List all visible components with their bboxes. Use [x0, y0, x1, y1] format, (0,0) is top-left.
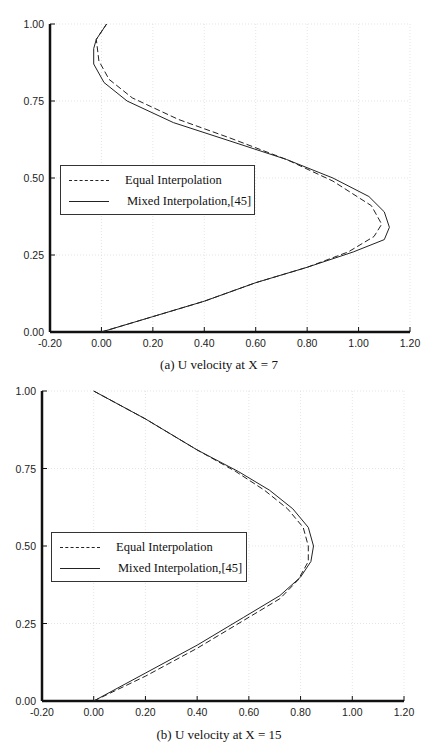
y-tick-label: 0.00 — [16, 695, 37, 707]
truncated-figure-caption — [0, 744, 170, 748]
y-tick-label: 0.25 — [16, 618, 37, 630]
chart-a: -0.200.000.200.400.600.801.001.200.000.2… — [0, 0, 438, 360]
x-tick-label: 0.00 — [91, 337, 112, 349]
x-tick-label: 1.20 — [394, 706, 415, 718]
x-tick-label: 1.20 — [400, 337, 421, 349]
solid-line-swatch-icon — [60, 568, 100, 569]
y-tick-label: 0.00 — [24, 326, 45, 338]
y-tick-label: 1.00 — [16, 385, 37, 397]
x-tick-label: 0.40 — [194, 337, 215, 349]
chart-b: -0.200.000.200.400.600.801.001.200.000.2… — [0, 375, 438, 755]
x-tick-label: 0.00 — [83, 706, 104, 718]
y-tick-label: 0.75 — [24, 95, 45, 107]
chart-a-legend: Equal Interpolation Mixed Interpolation,… — [60, 165, 255, 215]
x-tick-label: 0.60 — [239, 706, 260, 718]
chart-a-caption: (a) U velocity at X = 7 — [0, 357, 438, 373]
x-tick-label: 0.20 — [143, 337, 164, 349]
y-tick-label: 0.75 — [16, 463, 37, 475]
x-tick-label: 1.00 — [342, 706, 363, 718]
chart-b-legend: Equal Interpolation Mixed Interpolation,… — [51, 532, 247, 582]
dashed-line-swatch-icon — [60, 547, 100, 548]
y-tick-label: 0.50 — [16, 540, 37, 552]
y-tick-label: 0.50 — [24, 172, 45, 184]
x-tick-label: 0.20 — [135, 706, 156, 718]
x-tick-label: 0.60 — [245, 337, 266, 349]
solid-line-swatch-icon — [69, 201, 109, 202]
x-tick-label: -0.20 — [38, 337, 62, 349]
x-tick-label: 0.80 — [290, 706, 311, 718]
x-tick-label: 1.00 — [348, 337, 369, 349]
legend-label-mixed: Mixed Interpolation,[45] — [127, 194, 251, 209]
x-tick-label: -0.20 — [30, 706, 54, 718]
y-tick-label: 0.25 — [24, 249, 45, 261]
legend-label-equal: Equal Interpolation — [125, 173, 222, 188]
x-tick-label: 0.80 — [297, 337, 318, 349]
legend-label-equal: Equal Interpolation — [116, 540, 213, 555]
legend-label-mixed: Mixed Interpolation,[45] — [118, 561, 242, 576]
dashed-line-swatch-icon — [69, 180, 109, 181]
x-tick-label: 0.40 — [187, 706, 208, 718]
chart-b-caption: (b) U velocity at X = 15 — [0, 727, 438, 743]
y-tick-label: 1.00 — [24, 18, 45, 30]
